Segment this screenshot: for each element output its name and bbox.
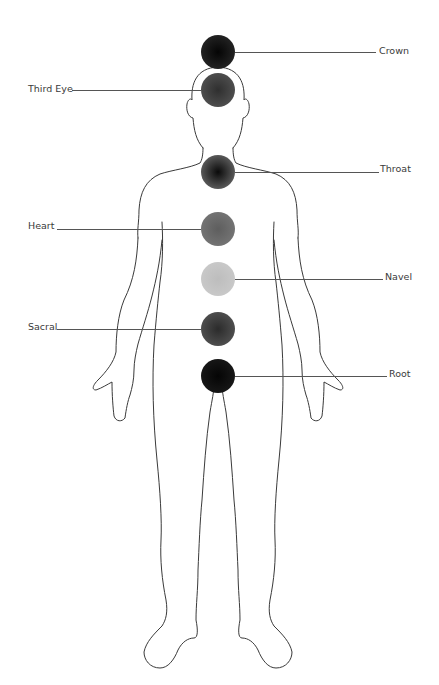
chakra-body-diagram: CrownThird EyeThroatHeartNavelSacralRoot — [0, 0, 439, 685]
chakra-circle-heart — [201, 212, 235, 246]
chakra-circle-root — [201, 359, 235, 393]
chakra-circle-navel — [201, 262, 235, 296]
chakra-circle-third-eye — [201, 73, 235, 107]
chakra-label-sacral: Sacral — [28, 321, 57, 333]
chakra-circle-throat — [201, 155, 235, 189]
chakra-label-throat: Throat — [380, 163, 411, 175]
chakra-label-root: Root — [389, 368, 411, 380]
chakra-label-heart: Heart — [28, 220, 54, 232]
chakra-label-third-eye: Third Eye — [28, 83, 73, 95]
chakra-label-navel: Navel — [385, 271, 412, 283]
leader-line-navel — [235, 279, 383, 280]
chakra-circle-sacral — [201, 312, 235, 346]
leader-line-sacral — [57, 329, 201, 330]
chakra-circle-crown — [201, 35, 235, 69]
leader-line-heart — [57, 229, 201, 230]
leader-line-third-eye — [72, 90, 201, 91]
leader-line-throat — [235, 172, 379, 173]
leader-line-crown — [235, 52, 376, 53]
leader-line-root — [235, 376, 387, 377]
chakra-label-crown: Crown — [379, 45, 409, 57]
